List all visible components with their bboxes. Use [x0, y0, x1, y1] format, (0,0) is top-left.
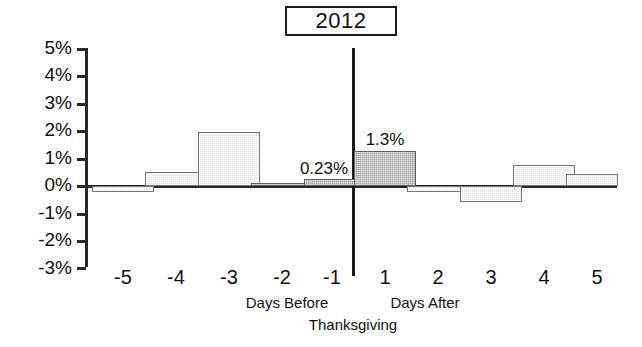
y-axis-tick-2 — [77, 130, 86, 133]
x-tick-label-minus-4: -4 — [146, 267, 206, 287]
y-tick-label-3: 3% — [16, 93, 72, 112]
x-tick-label-minus-3: -3 — [199, 267, 259, 287]
y-axis-tick-1 — [77, 158, 86, 161]
x-tick-label-1: 1 — [355, 267, 415, 287]
data-label-day-1: 1.3% — [349, 131, 421, 148]
y-tick-label-neg1: -1% — [16, 203, 72, 222]
y-axis-tick-5 — [77, 48, 86, 51]
x-tick-label-minus-5: -5 — [93, 267, 153, 287]
y-tick-label-neg2: -2% — [16, 230, 72, 249]
x-tick-label-minus-1: -1 — [302, 267, 362, 287]
data-label-day-minus-1: 0.23% — [284, 160, 364, 177]
chart-title: 2012 — [316, 10, 367, 32]
y-axis-tick-3 — [77, 103, 86, 106]
x-axis-label-days-after: Days After — [355, 295, 495, 310]
x-tick-label-4: 4 — [514, 267, 574, 287]
chart-figure: 2012 5% 4% 3% 2% 1% 0% -1% -2% -3% 0.23%… — [0, 0, 642, 347]
bar-day-3 — [460, 186, 522, 202]
y-axis-tick-neg2 — [77, 240, 86, 243]
bar-day-5 — [566, 174, 618, 186]
x-axis-label-thanksgiving: Thanksgiving — [268, 317, 438, 332]
x-tick-label-2: 2 — [408, 267, 468, 287]
y-tick-label-4: 4% — [16, 65, 72, 84]
y-axis-tick-neg3 — [77, 267, 86, 270]
bar-day-minus-5 — [92, 186, 154, 192]
y-axis-labels: 5% 4% 3% 2% 1% 0% -1% -2% -3% — [14, 48, 72, 267]
chart-title-box: 2012 — [285, 6, 397, 36]
y-axis-tick-neg1 — [77, 213, 86, 216]
y-tick-label-neg3: -3% — [16, 258, 72, 277]
y-tick-label-5: 5% — [16, 38, 72, 57]
bar-day-minus-3 — [198, 132, 260, 186]
x-tick-label-3: 3 — [461, 267, 521, 287]
y-tick-label-0: 0% — [16, 175, 72, 194]
bar-day-minus-1 — [304, 179, 359, 186]
y-axis-tick-4 — [77, 75, 86, 78]
y-tick-label-2: 2% — [16, 120, 72, 139]
x-axis-label-days-before: Days Before — [212, 295, 362, 310]
y-tick-label-1: 1% — [16, 148, 72, 167]
x-tick-label-5: 5 — [567, 267, 627, 287]
